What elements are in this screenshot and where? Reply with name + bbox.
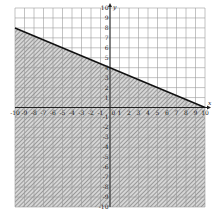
y-tick-label: -8 <box>103 183 109 190</box>
x-tick-label: 2 <box>127 109 131 116</box>
x-tick-label: 5 <box>156 109 160 116</box>
x-tick-label: 1 <box>118 109 122 116</box>
y-tick-label: -3 <box>103 133 109 140</box>
x-tick-label: 9 <box>194 109 198 116</box>
x-tick-label: -10 <box>10 109 20 116</box>
y-tick-label: 1 <box>105 94 109 101</box>
x-tick-label: -5 <box>60 109 66 116</box>
x-tick-label: -3 <box>79 109 85 116</box>
x-tick-label: 7 <box>175 109 179 116</box>
x-tick-label: -2 <box>88 109 94 116</box>
y-tick-label: 5 <box>105 54 109 61</box>
y-tick-label: -1 <box>103 113 109 120</box>
y-tick-label: -2 <box>103 123 109 130</box>
x-tick-label: -6 <box>50 109 56 116</box>
y-tick-label: -10 <box>99 203 109 210</box>
x-tick-label: -8 <box>31 109 37 116</box>
x-tick-label: -4 <box>69 109 75 116</box>
y-tick-label: -6 <box>103 163 109 170</box>
y-tick-label: 3 <box>105 74 109 81</box>
origin-label: 0 <box>112 109 116 116</box>
y-tick-label: 6 <box>105 44 109 51</box>
y-tick-label: -5 <box>103 153 109 160</box>
y-axis-label: y <box>112 3 117 11</box>
x-tick-label: 4 <box>146 109 150 116</box>
x-tick-label: -7 <box>41 109 47 116</box>
x-tick-label: -9 <box>22 109 28 116</box>
y-tick-label: -9 <box>103 193 109 200</box>
x-tick-label: 10 <box>201 109 209 116</box>
y-tick-label: 7 <box>105 34 109 41</box>
y-tick-label: -4 <box>103 143 109 150</box>
x-tick-label: 6 <box>165 109 169 116</box>
y-tick-label: -7 <box>103 173 109 180</box>
y-tick-label: 9 <box>105 14 109 21</box>
x-axis-label: x <box>208 99 212 106</box>
inequality-graph: xy -10-9-8-7-6-5-4-3-2-112345678910-10-9… <box>0 0 217 224</box>
x-tick-label: 8 <box>184 109 188 116</box>
y-tick-label: 10 <box>101 4 109 11</box>
x-tick-label: 3 <box>137 109 141 116</box>
y-tick-label: 2 <box>105 84 109 91</box>
y-tick-label: 4 <box>105 64 109 71</box>
y-tick-label: 8 <box>105 24 109 31</box>
